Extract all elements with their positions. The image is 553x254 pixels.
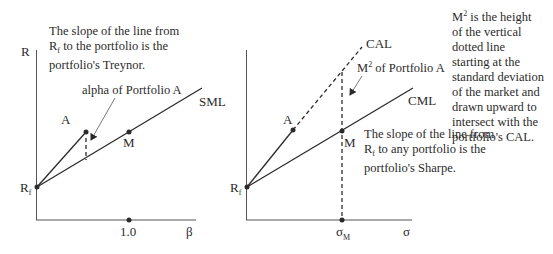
- treynor-note: The slope of the line from Rf to the por…: [49, 24, 179, 73]
- right-m-label: M: [344, 135, 356, 150]
- left-m-label: M: [123, 135, 135, 150]
- right-a-label: A: [283, 112, 293, 127]
- right-a-point: [291, 128, 296, 133]
- m2-side-note-line: portfolio's CAL.: [452, 130, 544, 145]
- sml-label: SML: [199, 94, 226, 109]
- sml-line: [37, 88, 202, 187]
- right-m-point: [340, 129, 345, 134]
- beta-one-tick: [127, 218, 132, 223]
- alpha-annotation: alpha of Portfolio A: [82, 83, 182, 97]
- left-a-point: [84, 130, 89, 135]
- m2-side-note-line: drawn upward to: [452, 100, 544, 115]
- treynor-note-line: portfolio's Treynor.: [49, 58, 179, 73]
- left-panel-sml-chart: R β 1.0 Rf A M SML alpha of Portfolio A: [20, 44, 226, 239]
- m2-side-note-line: M2 is the height: [452, 6, 544, 25]
- alpha-arrow: [91, 98, 115, 140]
- cal-label: CAL: [366, 36, 392, 51]
- sharpe-note-line: portfolio's Sharpe.: [364, 161, 494, 176]
- m2-side-note-line: of the vertical: [452, 25, 544, 40]
- m2-side-note-line: starting at the: [452, 55, 544, 70]
- rf-to-a-line-right: [247, 130, 293, 187]
- treynor-note-line: Rf to the portfolio is the: [49, 39, 179, 58]
- m2-side-note-line: dotted line: [452, 40, 544, 55]
- m2-arrow: [350, 76, 362, 95]
- beta-tick-label: 1.0: [120, 224, 136, 239]
- cal-dashed-line: [293, 47, 362, 130]
- right-rf-label: Rf: [230, 180, 242, 197]
- m2-side-note-line: of the market and: [452, 85, 544, 100]
- left-a-label: A: [61, 112, 71, 127]
- right-x-axis-label: σ: [403, 224, 410, 239]
- left-y-axis-label: R: [21, 44, 30, 59]
- m2-side-note-line: standard deviation: [452, 70, 544, 85]
- cml-label: CML: [408, 93, 436, 108]
- m2-annotation: M2 of Portfolio A: [357, 60, 445, 75]
- left-x-axis-label: β: [186, 224, 193, 239]
- sigma-m-tick-label: σM: [336, 224, 350, 242]
- treynor-note-line: The slope of the line from: [49, 24, 179, 39]
- m2-side-note-line: intersect with the: [452, 115, 544, 130]
- rf-to-a-line: [37, 132, 86, 187]
- m2-side-note: M2 is the height of the vertical dotted …: [452, 6, 544, 145]
- sigma-m-tick: [340, 218, 345, 223]
- left-rf-point: [35, 185, 40, 190]
- right-rf-point: [245, 185, 250, 190]
- left-m-point: [127, 130, 132, 135]
- left-rf-label: Rf: [20, 180, 32, 197]
